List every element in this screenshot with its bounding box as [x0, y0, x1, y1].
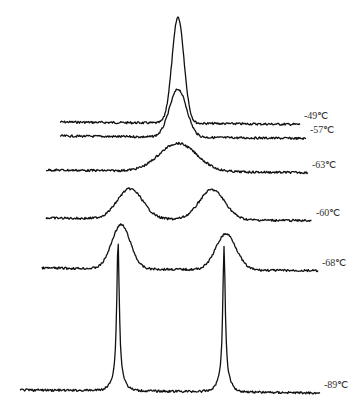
trace-label: -89℃	[324, 379, 348, 390]
trace-label: -68℃	[322, 257, 346, 268]
trace-label: -63℃	[312, 159, 336, 170]
trace-1	[60, 89, 306, 139]
spectra-plot	[0, 0, 348, 414]
trace-4	[42, 224, 318, 272]
trace-label: -57℃	[310, 124, 334, 135]
trace-3	[46, 188, 312, 222]
trace-label: -49℃	[304, 110, 328, 121]
trace-0	[60, 17, 300, 125]
trace-label: -60℃	[316, 207, 340, 218]
trace-2	[46, 142, 308, 173]
